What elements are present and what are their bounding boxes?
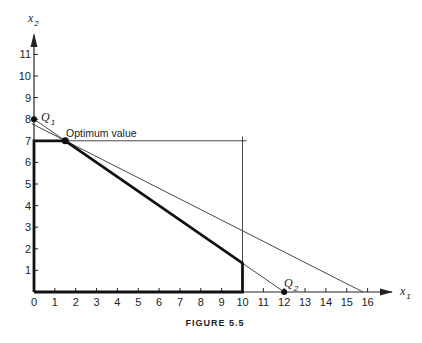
y-tick-label: 2 [25,243,31,255]
lp-chart: 0123456789101112131415161234567891011 x1… [0,0,422,343]
y-tick-label: 4 [25,200,31,212]
x-tick-label: 2 [73,296,79,308]
y-tick-label: 9 [25,92,31,104]
lines [32,118,363,292]
y-axis-arrow [31,33,38,47]
objective-line [32,124,363,292]
ticks: 0123456789101112131415161234567891011 [19,48,374,308]
y-tick-label: 8 [25,113,31,125]
x-tick-label: 7 [177,296,183,308]
x-axis-label: x1 [399,284,411,301]
point-q1 [31,116,37,122]
x-tick-label: 5 [135,296,141,308]
y-tick-label: 11 [20,48,31,60]
y-axis-label: x2 [27,11,39,28]
x-tick-label: 12 [278,296,290,308]
x-tick-label: 8 [198,296,204,308]
q1-label: Q1 [41,110,55,127]
x-tick-label: 14 [320,296,332,308]
optimum-label: Optimum value [66,127,137,139]
x-tick-label: 3 [93,296,99,308]
x-axis-arrow [380,289,393,296]
feasible-region-boundary [34,141,243,292]
x-tick-label: 9 [219,296,225,308]
x-tick-label: 6 [156,296,162,308]
figure-caption: FIGURE 5.5 [185,318,244,328]
y-tick-label: 5 [25,178,31,190]
x-tick-label: 10 [236,296,248,308]
y-tick-label: 7 [25,135,31,147]
x-tick-label: 0 [31,296,37,308]
x-tick-label: 15 [341,296,353,308]
y-tick-label: 1 [25,264,31,276]
axes [31,33,394,296]
y-tick-label: 6 [25,156,31,168]
y-tick-label: 10 [19,70,31,82]
y-tick-label: 3 [25,221,31,233]
x-tick-label: 13 [299,296,311,308]
x-tick-label: 11 [258,296,269,308]
x-tick-label: 1 [52,296,58,308]
x-tick-label: 16 [361,296,373,308]
x-tick-label: 4 [114,296,120,308]
